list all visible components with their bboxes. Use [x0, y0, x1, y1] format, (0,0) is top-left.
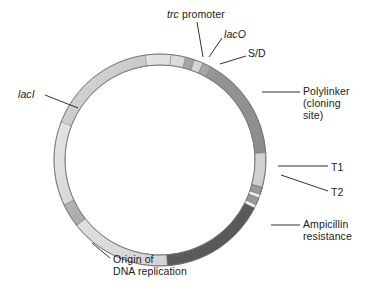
ring-segment: [145, 54, 171, 66]
plasmid-map-figure: trc promoter lacO S/D Polylinker(cloning…: [0, 0, 369, 303]
ring-segment: [206, 67, 266, 153]
label-trc-promoter: trc promoter: [167, 8, 225, 20]
polylinker-line-2: (cloning: [303, 97, 341, 109]
ring-segment: [61, 55, 147, 126]
promoter-roman: promoter: [179, 8, 225, 20]
origin-line-2: DNA replication: [113, 265, 187, 277]
polylinker-line-1: Polylinker: [303, 85, 350, 97]
label-polylinker: Polylinker(cloningsite): [303, 85, 350, 122]
label-t2: T2: [331, 186, 343, 198]
ring-segments-group: [54, 54, 266, 266]
laco-text: lacO: [224, 28, 246, 40]
origin-line-1: Origin of: [113, 253, 154, 265]
laci-text: lacI: [18, 88, 35, 100]
label-origin-of-dna-replication: Origin ofDNA replication: [113, 253, 187, 277]
trc-italic: trc: [167, 8, 179, 20]
sd-leader: [220, 56, 246, 64]
polylinker-line-3: site): [303, 109, 323, 121]
trc-promoter-leader: [197, 22, 203, 57]
label-laci: lacI: [18, 88, 35, 100]
ampicillin-line-2: resistance: [303, 230, 352, 242]
label-laco: lacO: [224, 28, 246, 40]
laco-leader: [209, 38, 222, 57]
label-sd: S/D: [248, 47, 266, 59]
t2-leader: [281, 175, 328, 191]
ampicillin-line-1: Ampicillin: [303, 218, 348, 230]
label-t1: T1: [331, 161, 343, 173]
label-ampicillin-resistance: Ampicillinresistance: [303, 218, 352, 242]
